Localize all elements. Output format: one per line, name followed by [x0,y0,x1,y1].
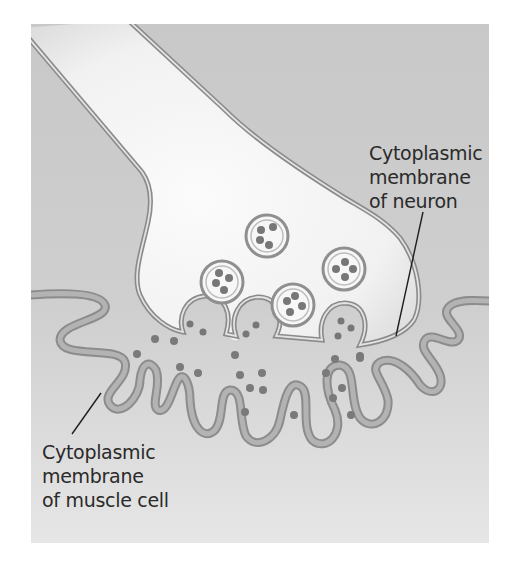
vesicle [246,215,288,257]
muscle-label-line-3: of muscle cell [42,488,169,512]
muscle-membrane-label: Cytoplasmic membrane of muscle cell [42,440,169,512]
neuron-membrane-label: Cytoplasmic membrane of neuron [369,141,482,213]
muscle-label-line-2: membrane [42,464,169,488]
muscle-label-line-1: Cytoplasmic [42,440,169,464]
vesicle [323,248,365,290]
neuron-label-line-2: membrane [369,165,482,189]
neuron-label-line-1: Cytoplasmic [369,141,482,165]
neuron-label-line-3: of neuron [369,189,482,213]
neuromuscular-junction-diagram: Cytoplasmic membrane of neuron Cytoplasm… [0,0,513,565]
vesicle [201,261,243,303]
vesicle [272,284,314,326]
